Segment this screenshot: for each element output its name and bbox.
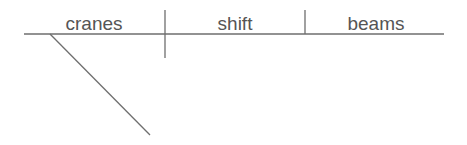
subject-word: cranes <box>65 13 122 34</box>
verb-word: shift <box>218 13 254 34</box>
sentence-diagram: cranes shift beams <box>0 0 467 145</box>
object-word: beams <box>347 13 404 34</box>
modifier-diagonal <box>50 34 150 135</box>
